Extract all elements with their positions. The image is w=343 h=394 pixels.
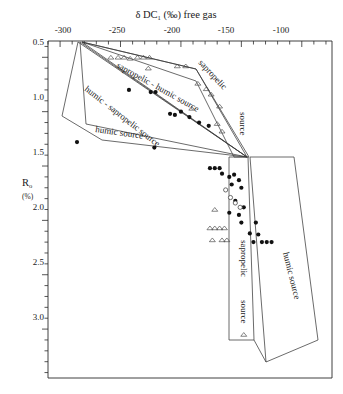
region-labels: humic source humic - sapropelic source s… bbox=[83, 58, 303, 324]
svg-text:Ro: Ro bbox=[22, 177, 32, 189]
scatter-plot-svg: δ DC1 (‰) free gas Ro (%) -300 -250 -200… bbox=[0, 0, 343, 394]
x-tick-label: -100 bbox=[273, 25, 290, 35]
region-label-sapropelic-source-word2: source bbox=[239, 300, 249, 324]
chart-figure: δ DC1 (‰) free gas Ro (%) -300 -250 -200… bbox=[0, 0, 343, 394]
y-axis-title-sub: o bbox=[29, 182, 32, 189]
x-axis-title-rest: (‰) free gas bbox=[163, 9, 216, 21]
x-tick-label: -250 bbox=[109, 25, 126, 35]
y-tick-label: 2.0 bbox=[33, 202, 45, 212]
y-axis-title: Ro (%) bbox=[22, 177, 34, 201]
region-label-sapropelic-upper: sapropelic bbox=[197, 58, 230, 92]
region-label-sapropelic-source-word: sapropelic bbox=[239, 240, 249, 277]
x-axis-title-main: DC bbox=[143, 9, 158, 20]
x-tick-label: -150 bbox=[218, 25, 235, 35]
y-axis-title-main: R bbox=[22, 177, 29, 188]
y-tick-label: 0.5 bbox=[33, 37, 45, 47]
y-tick-labels: 0.5 1.0 1.5 2.0 2.5 3.0 bbox=[33, 37, 45, 322]
region-polygons bbox=[62, 42, 318, 362]
x-tick-label: -300 bbox=[55, 25, 72, 35]
region-label-humic-source-lower: humic source bbox=[281, 251, 302, 300]
y-tick-label: 3.0 bbox=[33, 312, 45, 322]
x-tick-labels: -300 -250 -200 -150 -100 bbox=[55, 25, 290, 35]
y-axis-units: (%) bbox=[22, 192, 34, 201]
svg-text:δ DC1 (‰) free gas: δ DC1 (‰) free gas bbox=[135, 9, 216, 21]
y-tick-label: 1.5 bbox=[33, 147, 45, 157]
y-tick-label: 1.0 bbox=[33, 92, 45, 102]
region-label-sapropelic-source-top: source bbox=[238, 112, 248, 136]
y-tick-label: 2.5 bbox=[33, 257, 45, 267]
x-axis-title: δ DC1 (‰) free gas bbox=[135, 9, 216, 21]
x-tick-label: -200 bbox=[164, 25, 181, 35]
